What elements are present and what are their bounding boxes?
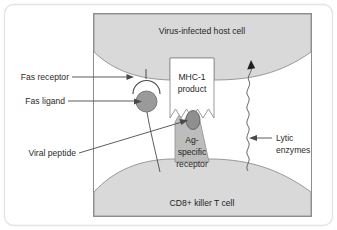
mhc-1-label-line1: MHC-1 bbox=[178, 72, 205, 82]
fas-ligand-label: Fas ligand bbox=[25, 96, 65, 106]
immunology-diagram: Virus-infected host cell CD8+ killer T c… bbox=[0, 0, 337, 230]
peptide-oval-icon bbox=[186, 111, 200, 130]
viral-peptide-label: Viral peptide bbox=[28, 148, 76, 158]
lytic-enzymes-label-line2: enzymes bbox=[276, 145, 310, 155]
ag-receptor-label-line2: specific bbox=[178, 147, 207, 157]
fas-receptor-label: Fas receptor bbox=[21, 72, 69, 82]
lytic-enzymes-label-line1: Lytic bbox=[276, 133, 294, 143]
mhc-1-label-line2: product bbox=[178, 84, 207, 94]
ag-receptor-label-line3: receptor bbox=[176, 159, 208, 169]
host-cell-label: Virus-infected host cell bbox=[159, 26, 245, 36]
t-cell-label: CD8+ killer T cell bbox=[170, 198, 235, 208]
figure-root: Virus-infected host cell CD8+ killer T c… bbox=[0, 0, 337, 230]
ag-receptor-label-line1: Ag- bbox=[185, 135, 199, 145]
